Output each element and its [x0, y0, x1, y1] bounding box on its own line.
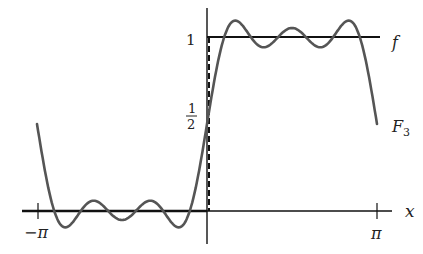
f-label: f: [391, 33, 401, 52]
tick-label-half-den: 2: [187, 117, 195, 132]
fourier-chart: 1 1 2 f F3 x −π π: [0, 0, 423, 254]
tick-label-neg-pi: −π: [24, 223, 48, 242]
F3-label: F3: [391, 117, 410, 139]
x-axis-label: x: [405, 201, 415, 221]
tick-label-half-num: 1: [188, 101, 196, 116]
tick-label-one: 1: [186, 31, 196, 49]
tick-label-pi: π: [370, 224, 382, 243]
